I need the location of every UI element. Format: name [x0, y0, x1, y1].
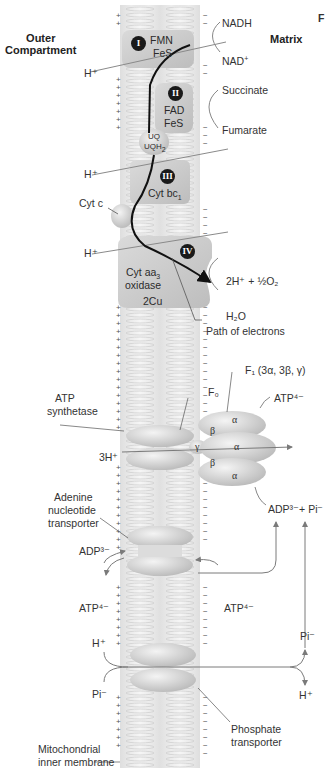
- h-plus-left-label: H⁺: [92, 637, 106, 649]
- ant-label-3: transporter: [48, 517, 99, 529]
- uqh2-subscript: 2: [162, 146, 166, 153]
- subunit-beta-top: β: [210, 425, 215, 436]
- water-label: H₂O: [226, 310, 246, 322]
- adp-in-label: ADP³⁻: [79, 545, 110, 557]
- adp-pi-label: ADP³⁻+ Pi⁻: [268, 503, 323, 515]
- ant-label-1: Adenine: [54, 491, 93, 503]
- outer-compartment-label: Outer Compartment: [5, 32, 77, 56]
- subunit-beta-bottom: β: [210, 457, 215, 468]
- complex-iv-2cu: 2Cu: [143, 295, 162, 307]
- svg-text:+: +: [116, 543, 121, 552]
- svg-text:−: −: [203, 19, 208, 28]
- svg-text:+: +: [116, 639, 121, 648]
- svg-text:+: +: [116, 19, 121, 28]
- complex-i-fmn: FMN: [150, 34, 173, 46]
- cytochrome-c: [111, 204, 133, 228]
- complex-ii-fad: FAD: [164, 104, 184, 116]
- nad-superscript: +: [244, 55, 248, 62]
- svg-text:−: −: [203, 139, 208, 148]
- atp-synthetase-label-1: ATP: [55, 392, 75, 404]
- subunit-gamma: γ: [195, 441, 199, 452]
- cyt-c-label: Cyt c: [79, 197, 103, 209]
- path-of-electrons-label: Path of electrons: [206, 325, 285, 337]
- svg-text:−: −: [203, 69, 208, 78]
- complex-i-fes: FeS: [153, 47, 172, 59]
- complex-iv-cyt-aa: Cyt aa: [126, 266, 156, 278]
- subunit-alpha-middle: α: [234, 441, 239, 452]
- oxygen-label: 2H⁺ + ½O₂: [226, 275, 278, 287]
- f1-label: F₁ (3α, 3β, γ): [245, 364, 306, 376]
- phosphate-transporter-label-2: transporter: [231, 736, 282, 748]
- uqh2-label: UQH: [144, 142, 162, 151]
- subunit-alpha-top: α: [232, 414, 237, 425]
- atp-out-label: ATP⁴⁻: [274, 392, 304, 404]
- corner-partial-label: F: [318, 12, 324, 24]
- subunit-alpha-bottom: α: [232, 470, 237, 481]
- atp-out-left-label: ATP⁴⁻: [79, 602, 109, 614]
- h-plus-complex-iv: H⁺: [84, 247, 98, 259]
- complex-i-numeral: I: [131, 36, 146, 51]
- atp-synthetase-label-2: synthetase: [47, 405, 98, 417]
- fumarate-label: Fumarate: [222, 124, 267, 136]
- complex-ii-numeral: II: [168, 86, 183, 101]
- membrane-label-1: Mitochondrial: [38, 743, 100, 755]
- svg-text:−: −: [203, 535, 208, 544]
- h-plus-complex-i: H⁺: [84, 67, 98, 79]
- complex-iii-numeral: III: [160, 169, 175, 184]
- complex-iv-oxidase: oxidase: [125, 279, 161, 291]
- pi-left-label: Pi⁻: [92, 688, 107, 700]
- membrane-label-2: inner membrane: [38, 756, 114, 768]
- complex-iii-cyt-bc: Cyt bc: [148, 187, 178, 199]
- succinate-label: Succinate: [222, 84, 268, 96]
- ant-label-2: nucleotide: [48, 504, 96, 516]
- atp-in-right-label: ATP⁴⁻: [224, 602, 254, 614]
- svg-text:−: −: [203, 749, 208, 758]
- complex-ii-fes: FeS: [164, 117, 183, 129]
- complex-iv-numeral: IV: [180, 244, 195, 259]
- svg-text:+: +: [116, 123, 121, 132]
- complex-iii-subscript: 1: [178, 194, 182, 201]
- svg-text:−: −: [203, 639, 208, 648]
- h-plus-complex-iii: H⁺: [84, 168, 98, 180]
- f0-label: F₀: [208, 386, 219, 398]
- h-plus-right-label: H⁺: [299, 689, 313, 701]
- three-h-plus-label: 3H⁺: [99, 451, 118, 463]
- nadh-label: NADH: [222, 17, 252, 29]
- phosphate-transporter-label-1: Phosphate: [231, 723, 281, 735]
- nad-label: NAD: [222, 55, 244, 67]
- pi-right-label: Pi⁻: [300, 630, 315, 642]
- svg-text:+: +: [116, 741, 121, 750]
- matrix-label: Matrix: [270, 33, 302, 45]
